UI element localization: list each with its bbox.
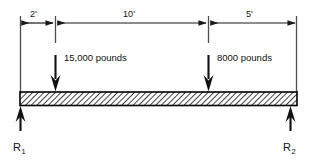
dimension-label-2ft: 2' [30, 9, 37, 19]
reaction-label-r2-text: R [283, 141, 291, 153]
load-arrow-15000 [51, 55, 61, 92]
reaction-label-r2: R2 [283, 141, 295, 153]
beam-loading-diagram: 2' 10' 5' 15,000 pounds 8000 pounds R1 R… [0, 0, 317, 164]
reaction-label-r2-subscript: 2 [291, 147, 295, 156]
load-arrow-8000 [204, 55, 214, 92]
reaction-arrow-r2 [286, 106, 296, 131]
reaction-label-r1-subscript: 1 [21, 147, 25, 156]
dimension-label-10ft: 10' [123, 9, 135, 19]
reaction-label-r1: R1 [13, 141, 25, 153]
beam-diagram-graphics [0, 0, 317, 164]
dimension-label-5ft: 5' [246, 9, 253, 19]
reaction-arrow-r1 [16, 106, 26, 131]
reaction-arrows [16, 106, 296, 131]
load-label-15000-pounds: 15,000 pounds [64, 52, 127, 63]
load-label-8000-pounds: 8000 pounds [217, 52, 272, 63]
beam [20, 92, 297, 106]
reaction-label-r1-text: R [13, 141, 21, 153]
